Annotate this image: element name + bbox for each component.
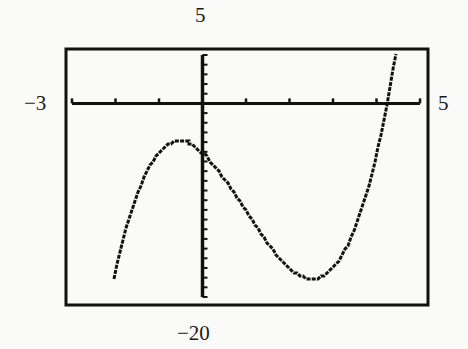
cubic-curve <box>114 54 396 279</box>
function-curve <box>114 54 396 279</box>
axes <box>72 55 420 297</box>
window-frame <box>66 49 428 305</box>
graphing-calculator-screen <box>0 0 468 349</box>
